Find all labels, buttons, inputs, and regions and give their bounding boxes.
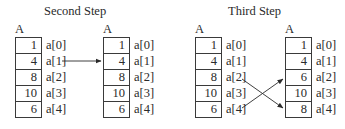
arrows-layer	[0, 0, 345, 129]
